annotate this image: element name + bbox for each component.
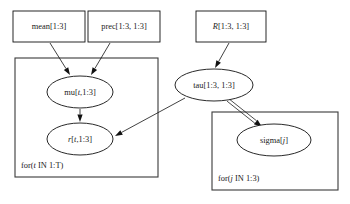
edge-prec-to-mu[interactable] [91,43,110,75]
edge-arrowhead [115,130,123,136]
edge-tau-to-sigma[interactable] [227,99,262,127]
node-r[interactable]: r[t,1:3] [47,123,113,155]
edge-stroke [50,43,66,69]
edge-R-to-tau[interactable] [215,43,229,68]
edge-arrowhead [77,115,82,123]
diagram-canvas: for(t IN 1:T) for(j IN 1:3) mean[1:3] pr… [0,0,350,204]
rect-node-group: mean[1:3] prec[1:3, 1:3] R[1:3, 1:3] [13,11,266,42]
node-mean-label: mean[1:3] [32,22,67,31]
edge-arrowhead [64,67,70,75]
node-mean[interactable]: mean[1:3] [13,11,85,42]
node-r-label: r[t,1:3] [68,134,92,143]
edge-tau-to-r[interactable] [115,98,185,136]
node-tau[interactable]: tau[1:3, 1:3] [175,69,253,101]
edge-stroke [95,43,110,69]
node-tau-label: tau[1:3, 1:3] [193,80,235,89]
node-sigma-label: sigma[j] [260,135,288,144]
edge-arrowhead [91,67,97,75]
plate-t-label: for(t IN 1:T) [21,161,64,170]
edge-stroke [219,43,229,61]
edge-arrowhead [215,60,221,68]
edge-mu-to-r[interactable] [77,109,82,122]
node-prec-label: prec[1:3, 1:3] [101,22,147,31]
node-mu-label: mu[t,1:3] [64,87,96,96]
edge-stroke [229,99,257,121]
plate-j-label: for(j IN 1:3) [218,174,260,183]
edge-stroke [122,98,185,132]
node-mu[interactable]: mu[t,1:3] [47,76,113,108]
node-sigma[interactable]: sigma[j] [237,124,311,156]
graphical-model-diagram: for(t IN 1:T) for(j IN 1:3) mean[1:3] pr… [0,0,350,204]
node-R-label: R[1:3, 1:3] [212,22,250,31]
node-R[interactable]: R[1:3, 1:3] [196,11,266,42]
node-prec[interactable]: prec[1:3, 1:3] [88,11,160,42]
edge-mean-to-mu[interactable] [50,43,70,75]
